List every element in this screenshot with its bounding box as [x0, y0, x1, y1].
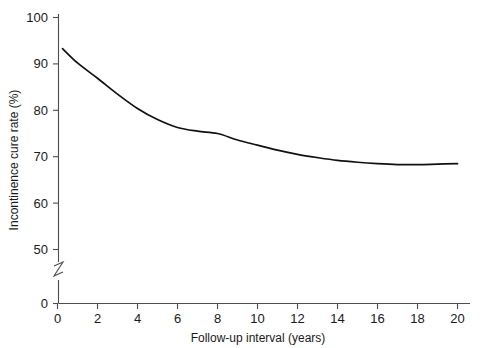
x-tick-label: 6	[174, 311, 181, 326]
y-tick-label: 50	[34, 242, 48, 257]
y-tick-label: 100	[26, 10, 48, 25]
y-tick-label: 80	[34, 103, 48, 118]
chart-canvas: 100 90 80 70 60 50 0 0 2 4 6	[0, 0, 481, 348]
x-axis-ticks	[58, 304, 458, 310]
y-tick-label: 90	[34, 56, 48, 71]
x-axis-tick-labels: 0 2 4 6 8 10 12 14 16 18 20	[54, 311, 465, 326]
y-axis-tick-labels: 100 90 80 70 60 50 0	[26, 10, 48, 311]
y-tick-label: 0	[41, 296, 48, 311]
x-tick-label: 2	[94, 311, 101, 326]
x-tick-label: 10	[250, 311, 264, 326]
chart-figure: 100 90 80 70 60 50 0 0 2 4 6	[0, 0, 481, 348]
y-tick-label: 60	[34, 196, 48, 211]
x-tick-label: 16	[370, 311, 384, 326]
x-tick-label: 8	[214, 311, 221, 326]
x-axis-title: Follow-up interval (years)	[191, 331, 326, 345]
x-tick-label: 14	[330, 311, 344, 326]
x-tick-label: 12	[290, 311, 304, 326]
y-tick-label: 70	[34, 149, 48, 164]
x-tick-label: 20	[450, 311, 464, 326]
x-tick-label: 18	[410, 311, 424, 326]
x-tick-label: 0	[54, 311, 61, 326]
y-axis-title: Incontinence cure rate (%)	[7, 90, 21, 231]
y-axis-break-icon	[54, 262, 63, 276]
y-axis-ticks	[53, 18, 59, 304]
data-curve-incontinence-cure-rate	[63, 49, 458, 165]
x-tick-label: 4	[134, 311, 141, 326]
